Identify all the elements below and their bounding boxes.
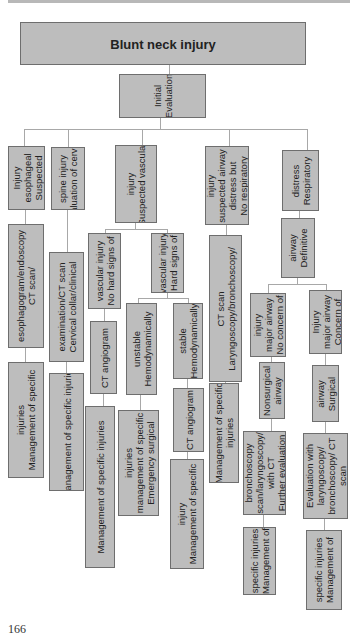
nonsurgical-airway-label: Nonsurgical airway: [261, 365, 283, 415]
connector: [263, 515, 264, 527]
esophageal-step1-label: esophagogram/endoscopy CT scan/: [15, 230, 37, 342]
emergency-surgical-box: injuries management of specific Emergenc…: [118, 410, 159, 516]
esophageal-node-label: Injury esophageal Suspected: [10, 153, 43, 202]
surgical-airway-box: airway Surgical: [312, 365, 339, 422]
airway-no-distress-node: injury suspected airway distress but No …: [205, 146, 249, 225]
no-concern-management: specific injuries Management of: [243, 527, 276, 595]
concern-node: Injury major airway Concern of: [309, 290, 342, 354]
cervical-step2-label: Management of specific injuries: [61, 373, 72, 491]
respiratory-distress-label: distress Respiratory: [290, 156, 312, 205]
emergency-surgical-label: injuries management of specific Emergenc…: [122, 413, 155, 513]
no-hard-signs-node: vascular injury No hard signs of: [88, 233, 121, 309]
definitive-airway-box: airway Definitive: [281, 218, 315, 278]
connector: [104, 309, 105, 321]
concern-evaluation-box: Evaluation with laryngoscopy/ bronchosco…: [303, 433, 348, 519]
connector: [324, 519, 325, 530]
vascular-node: injury Suspected vascular: [115, 145, 157, 223]
concern-label: Injury major airway Concern of: [309, 295, 342, 349]
connector: [103, 394, 104, 406]
no-concern-evaluation-label: bronchoscopy scan/laryngoscopy/ with CT …: [243, 432, 286, 513]
connector: [187, 379, 188, 388]
unstable-label: unstable Hemodynamically: [131, 312, 153, 387]
no-hard-ct-angiogram: CT angiogram: [90, 321, 117, 394]
connector: [67, 210, 68, 252]
concern-evaluation-label: Evaluation with laryngoscopy/ bronchosco…: [304, 437, 348, 514]
connector: [187, 452, 188, 459]
hard-signs-label: vascular injury Hard signs of: [157, 233, 179, 293]
connector: [169, 65, 170, 74]
cervical-node: spine injury Evaluation of cervical: [51, 147, 85, 210]
airway-no-distress-step2: Management of specific injuries: [209, 383, 239, 483]
connector: [229, 129, 230, 147]
surgical-airway-label: airway Surgical: [315, 376, 337, 410]
cervical-step1-label: examination/CT scan Cervical collar/clin…: [56, 262, 78, 353]
vascular-node-label: injury Suspected vascular: [125, 145, 147, 223]
unstable-node: unstable Hemodynamically: [126, 303, 157, 395]
airway-no-distress-label: injury suspected airway distress but No …: [205, 149, 249, 222]
connector: [160, 118, 161, 129]
connector: [105, 229, 167, 230]
airway-no-distress-step1: CT scan Laryngoscopy/bronchoscopy/: [209, 235, 242, 382]
no-concern-evaluation-box: bronchoscopy scan/laryngoscopy/ with CT …: [243, 431, 286, 515]
esophageal-node: Injury esophageal Suspected: [8, 146, 45, 210]
definitive-airway-label: airway Definitive: [287, 228, 309, 267]
stable-management: injury Management of specific: [170, 459, 204, 569]
no-hard-management: Management of specific injuries: [85, 406, 115, 568]
connector: [138, 298, 188, 299]
no-hard-signs-label: vascular injury No hard signs of: [94, 236, 116, 305]
connector: [24, 129, 307, 130]
connector: [299, 211, 300, 218]
initial-evaluation-label: Initial Evaluation: [152, 74, 174, 118]
title-box: Blunt neck injury: [20, 22, 306, 65]
esophageal-step2-label: injuries Management of specific: [15, 370, 37, 470]
concern-management: specific injuries Management of: [306, 530, 342, 610]
no-concern-node: injury major airway No concern of: [250, 293, 286, 357]
connector: [307, 129, 308, 151]
respiratory-distress-node: distress Respiratory: [282, 150, 319, 211]
title-label: Blunt neck injury: [110, 38, 215, 49]
connector: [268, 284, 326, 285]
no-concern-management-label: specific injuries Management of: [249, 528, 271, 594]
connector: [271, 419, 272, 431]
connector: [25, 348, 26, 362]
page-number: 166: [8, 622, 26, 636]
cervical-step2: Management of specific injuries: [49, 373, 84, 491]
stable-label: stable Hemodynamically: [177, 304, 199, 379]
concern-management-label: specific injuries Management of: [313, 537, 335, 603]
no-concern-label: injury major airway No concern of: [252, 295, 285, 354]
connector: [66, 362, 67, 373]
stable-ct-angiogram: CT angiogram: [173, 388, 204, 452]
esophageal-step2: injuries Management of specific: [8, 362, 44, 478]
airway-no-distress-step2-label: Management of specific injuries: [213, 383, 235, 483]
airway-no-distress-step1-label: CT scan Laryngoscopy/bronchoscopy/: [215, 247, 237, 371]
hard-signs-node: vascular injury Hard signs of: [151, 233, 184, 293]
initial-evaluation-box: Initial Evaluation: [119, 74, 206, 118]
esophageal-step1: esophagogram/endoscopy CT scan/: [8, 224, 44, 348]
no-hard-management-label: Management of specific injuries: [95, 420, 106, 553]
connector: [325, 422, 326, 433]
connector: [24, 129, 25, 146]
connector: [140, 395, 141, 410]
stable-node: stable Hemodynamically: [173, 303, 203, 379]
nonsurgical-airway-box: Nonsurgical airway: [259, 362, 285, 419]
top-rule: [8, 0, 350, 3]
connector: [142, 129, 143, 145]
stable-management-label: injury Management of specific: [176, 464, 198, 564]
cervical-node-label: spine injury Evaluation of cervical: [57, 147, 79, 210]
connector: [226, 225, 227, 235]
cervical-step1: examination/CT scan Cervical collar/clin…: [49, 252, 84, 362]
stable-ct-angiogram-label: CT angiogram: [183, 390, 194, 450]
no-hard-ct-angiogram-label: CT angiogram: [98, 327, 109, 387]
connector: [68, 129, 69, 147]
connector: [325, 354, 326, 365]
connector: [25, 210, 26, 224]
connector: [268, 284, 269, 293]
